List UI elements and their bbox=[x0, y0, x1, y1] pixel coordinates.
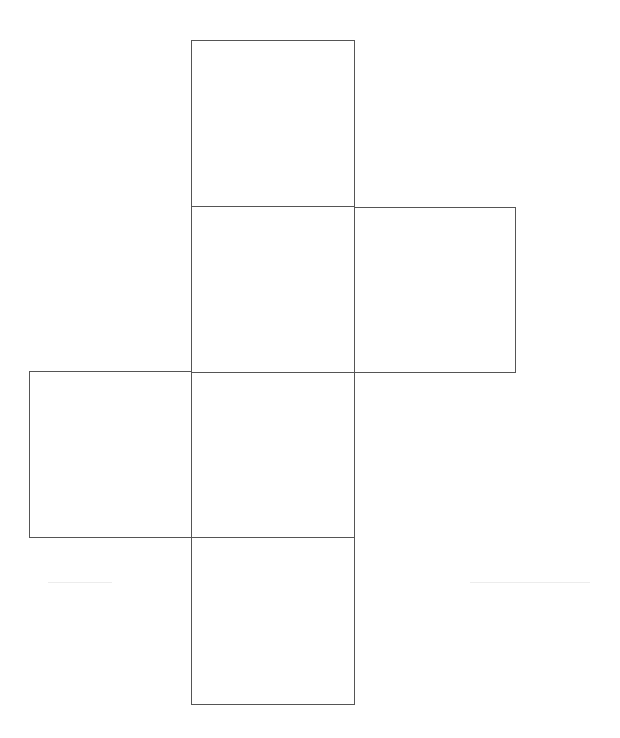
cube-face-lower-mid bbox=[191, 372, 355, 538]
cube-face-bottom bbox=[191, 537, 355, 705]
cube-face-top bbox=[191, 40, 355, 207]
cube-face-upper-mid bbox=[191, 206, 355, 373]
cube-face-left bbox=[29, 371, 192, 538]
right-faint-line bbox=[470, 582, 590, 583]
left-faint-line bbox=[48, 582, 112, 583]
cube-face-right bbox=[354, 207, 516, 373]
